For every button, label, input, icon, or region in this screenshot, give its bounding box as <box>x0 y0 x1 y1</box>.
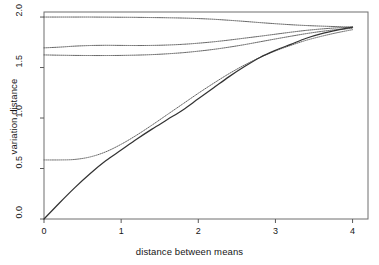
series-path-1 <box>44 27 353 48</box>
chart-container: distance between means variation distanc… <box>0 0 379 265</box>
y-tick-label-2: 1.0 <box>14 105 24 129</box>
y-tick-label-3: 1.5 <box>14 55 24 79</box>
x-tick-label-0: 0 <box>34 226 54 236</box>
x-tick-label-4: 4 <box>343 226 363 236</box>
y-axis-ticks <box>40 17 44 219</box>
data-series-group <box>44 17 353 219</box>
x-tick-label-1: 1 <box>111 226 131 236</box>
y-tick-label-1: 0.5 <box>14 156 24 180</box>
series-path-0 <box>44 17 353 27</box>
x-axis-title: distance between means <box>0 246 379 257</box>
plot-frame <box>44 12 368 219</box>
x-axis-ticks <box>44 219 353 223</box>
series-path-2 <box>44 28 353 55</box>
y-tick-label-0: 0.0 <box>14 206 24 230</box>
x-tick-label-2: 2 <box>188 226 208 236</box>
y-tick-label-4: 2.0 <box>14 4 24 28</box>
x-tick-label-3: 3 <box>265 226 285 236</box>
series-path-3 <box>44 30 353 160</box>
